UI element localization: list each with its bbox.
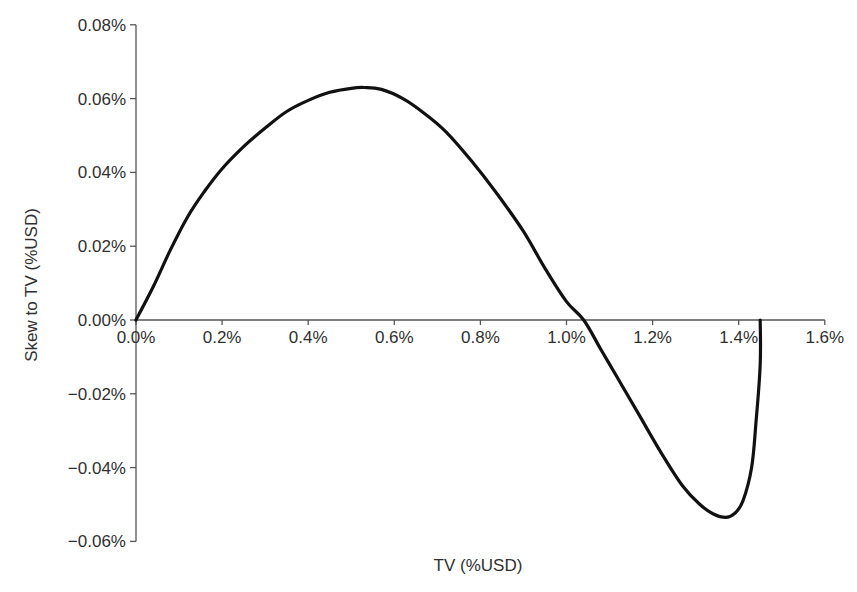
y-tick-label: 0.02% [78,237,126,256]
y-axis: 0.08%0.06%0.04%0.02%0.00%−0.02%−0.04%−0.… [68,16,136,552]
x-tick-label: 1.6% [805,328,844,347]
y-tick-label: 0.04% [78,163,126,182]
x-tick-label: 0.8% [461,328,500,347]
x-tick-label: 0.6% [375,328,414,347]
x-tick-label: 0.0% [117,328,156,347]
x-tick-label: 0.4% [289,328,328,347]
y-axis-title: Skew to TV (%USD) [22,208,41,362]
y-tick-label: −0.06% [68,532,126,551]
x-tick-label: 1.2% [633,328,672,347]
chart: 0.08%0.06%0.04%0.02%0.00%−0.02%−0.04%−0.… [0,0,857,592]
x-tick-label: 1.4% [719,328,758,347]
x-axis: 0.0%0.2%0.4%0.6%0.8%1.0%1.2%1.4%1.6% [117,320,845,347]
y-tick-label: 0.08% [78,16,126,35]
y-tick-label: 0.06% [78,90,126,109]
data-line-skew-to-tv [136,87,761,517]
x-tick-label: 0.2% [203,328,242,347]
y-tick-label: −0.04% [68,459,126,478]
x-tick-label: 1.0% [547,328,586,347]
x-axis-title: TV (%USD) [434,556,523,575]
y-tick-label: −0.02% [68,385,126,404]
